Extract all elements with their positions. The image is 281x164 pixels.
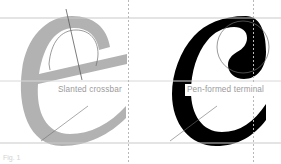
terminal-circle-outline [217,21,269,73]
leader-line-right [170,106,217,141]
typography-comparison-figure: Slanted crossbar Pen-formed terminal Fig… [0,0,281,164]
annotation-label-pen-formed-terminal: Pen-formed terminal [185,84,266,96]
leader-line-left [41,106,88,141]
figure-caption: Fig. 1 [3,153,21,162]
stress-axis-line [66,9,82,80]
counter-arc-outline [49,30,98,66]
counter-arc-outline-lower [49,64,50,70]
annotation-overlay-layer [0,0,281,164]
annotation-label-slanted-crossbar: Slanted crossbar [56,84,124,96]
